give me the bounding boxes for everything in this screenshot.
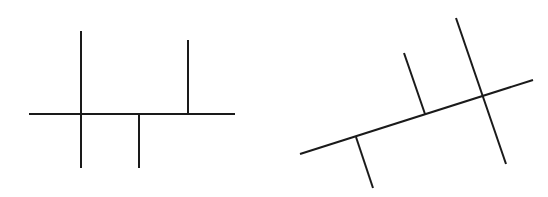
upward-stroke-line	[404, 53, 425, 114]
downward-stroke-line	[356, 137, 373, 188]
diagram-canvas	[0, 0, 548, 197]
upright-figure	[29, 31, 235, 168]
rotated-figure	[300, 18, 533, 188]
